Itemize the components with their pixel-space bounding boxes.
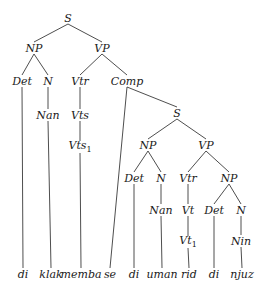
tree-edge <box>241 247 242 268</box>
leaf-word: njuz <box>230 269 253 280</box>
tree-node: N <box>236 205 246 216</box>
tree-edge <box>48 121 51 268</box>
tree-node: Nan <box>36 110 59 121</box>
tree-edge <box>134 151 148 172</box>
tree-edge <box>206 151 229 172</box>
leaf-word: rid <box>181 269 197 280</box>
tree-edge <box>34 54 48 75</box>
tree-edge <box>102 54 127 75</box>
tree-edge <box>188 248 189 268</box>
tree-node: Vt <box>182 205 194 216</box>
tree-edge <box>22 87 23 268</box>
tree-edge <box>80 153 81 268</box>
syntax-tree-diagram: SNPVPDetNVtrCompNanVtsVts1SNPVPDetNVtrNP… <box>0 0 267 293</box>
tree-edge <box>177 119 206 139</box>
tree-edge <box>80 54 102 75</box>
tree-edge <box>229 184 241 204</box>
tree-node: Vts1 <box>68 140 91 154</box>
tree-edge <box>148 151 161 172</box>
tree-node: N <box>156 173 166 184</box>
tree-node: Vt1 <box>179 235 196 249</box>
tree-edge <box>34 24 68 42</box>
tree-node: S <box>64 13 72 24</box>
tree-node: Vtr <box>71 76 89 87</box>
leaf-word: di <box>129 269 140 280</box>
leaf-word: di <box>18 269 29 280</box>
leaf-word: di <box>209 269 220 280</box>
tree-node: N <box>43 76 53 87</box>
tree-edge <box>188 151 206 172</box>
tree-node: Nan <box>149 205 172 216</box>
tree-node: Det <box>12 76 32 87</box>
tree-node: Vts <box>71 110 89 121</box>
tree-node: S <box>173 108 181 119</box>
tree-edge <box>214 184 229 204</box>
tree-node: Det <box>124 173 144 184</box>
tree-node: Comp <box>111 76 144 87</box>
tree-node: NP <box>139 140 156 151</box>
tree-node: VP <box>94 43 109 54</box>
tree-edge <box>22 54 34 75</box>
tree-edge <box>161 216 162 268</box>
tree-edge <box>68 24 102 42</box>
tree-node: NP <box>25 43 42 54</box>
tree-node: Det <box>204 205 224 216</box>
tree-node: Vtr <box>179 173 197 184</box>
tree-node: VP <box>198 140 213 151</box>
leaf-word: klak <box>39 269 62 280</box>
tree-edge <box>148 119 177 139</box>
tree-edge <box>127 87 177 107</box>
leaf-word: memba <box>61 269 102 280</box>
leaf-word: uman <box>146 269 177 280</box>
tree-node: NP <box>220 173 237 184</box>
leaf-word: se <box>104 269 116 280</box>
tree-node: Nin <box>231 236 251 247</box>
